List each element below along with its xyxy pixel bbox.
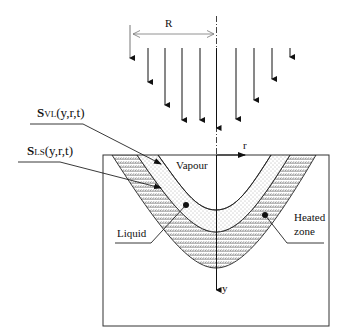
radius-label: R — [165, 17, 173, 29]
heated-zone-label-line2: zone — [294, 225, 315, 237]
heated-zone-point-dot — [262, 212, 268, 218]
svl-label: SVL(y,r,t) — [37, 105, 84, 120]
sls-label: SLS(y,r,t) — [27, 143, 73, 158]
vapour-label: Vapour — [176, 159, 208, 171]
y-axis-label: y — [222, 282, 228, 294]
laser-melting-diagram: R r y Vapour Liquid Heated zone SVL(y,r,… — [0, 0, 346, 336]
laser-beam-arrows — [130, 25, 290, 128]
heated-zone-label-line1: Heated — [294, 211, 326, 223]
liquid-point-dot — [183, 202, 189, 208]
liquid-label: Liquid — [117, 227, 147, 239]
r-axis-label: r — [243, 139, 247, 151]
